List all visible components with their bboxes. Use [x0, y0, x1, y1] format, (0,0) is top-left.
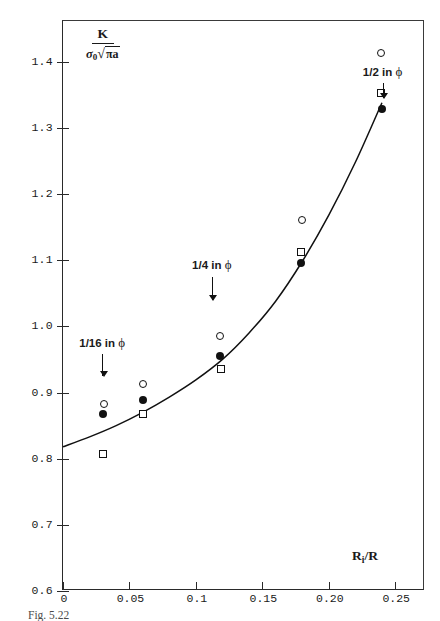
- x-axis-tick: 0.15: [262, 582, 263, 590]
- data-point-open-square: [217, 365, 225, 373]
- y-axis-tick-label: 1.4: [31, 55, 53, 68]
- y-axis-tick-label: 0.6: [31, 584, 53, 597]
- data-point-filled-circle: [99, 410, 107, 418]
- y-axis-tick: 1.4: [57, 62, 69, 63]
- data-point-open-circle: [139, 380, 147, 388]
- annotation-1-4-in-arrow-icon: [212, 277, 213, 299]
- y-axis-tick: 1.1: [57, 260, 69, 261]
- data-point-open-square: [297, 248, 305, 256]
- annotation-1-2-in-text: 1/2 in: [363, 66, 396, 78]
- x-axis-tick-label: 0.25: [382, 592, 410, 605]
- y-axis-tick-label: 1.1: [31, 253, 53, 266]
- y-axis-tick: 1.0: [57, 326, 69, 327]
- plot-area: 0.60.70.80.91.01.11.21.31.400.050.10.150…: [62, 20, 424, 590]
- data-point-filled-circle: [139, 396, 147, 404]
- figure-caption: Fig. 5.22: [28, 609, 69, 621]
- y-axis-tick-label: 0.8: [31, 452, 53, 465]
- y-axis-tick: 1.3: [57, 128, 69, 129]
- x-axis-tick-label: 0.1: [187, 592, 208, 605]
- annotation-1-16-in-arrow-icon: [102, 354, 103, 376]
- x-axis-tick: 0.1: [196, 582, 197, 590]
- data-point-filled-circle: [378, 105, 386, 113]
- fitted-curve-path: [63, 103, 382, 447]
- data-point-open-square: [139, 410, 147, 418]
- y-axis-tick: 0.8: [57, 459, 69, 460]
- phi-symbol: ϕ: [118, 335, 125, 350]
- y-axis-tick: 0.9: [57, 393, 69, 394]
- data-point-open-square: [99, 450, 107, 458]
- x-axis-tick-label: 0.05: [117, 592, 145, 605]
- phi-symbol: ϕ: [395, 64, 402, 79]
- annotation-1-16-in-text: 1/16 in: [79, 337, 118, 349]
- phi-symbol: ϕ: [225, 257, 232, 272]
- y-axis-tick-label: 0.7: [31, 518, 53, 531]
- annotation-1-4-in: 1/4 in ϕ: [192, 257, 231, 273]
- y-axis-tick-label: 0.9: [31, 386, 53, 399]
- y-axis-tick-label: 1.2: [31, 187, 53, 200]
- figure-stress-intensity-chart: K σ0√πa Ri/R 0.60.70.80.91.01.11.21.31.4…: [0, 0, 440, 621]
- x-axis-tick: 0.05: [129, 582, 130, 590]
- annotation-1-4-in-text: 1/4 in: [192, 259, 225, 271]
- data-point-filled-circle: [297, 259, 305, 267]
- data-point-open-circle: [377, 49, 385, 57]
- data-point-open-circle: [298, 216, 306, 224]
- y-axis-tick-label: 1.3: [31, 121, 53, 134]
- x-axis-tick-label: 0.20: [316, 592, 344, 605]
- x-axis-tick: 0.20: [329, 582, 330, 590]
- annotation-1-16-in: 1/16 in ϕ: [79, 335, 125, 351]
- y-axis-tick-label: 1.0: [31, 319, 53, 332]
- x-axis-tick: 0: [63, 582, 64, 590]
- x-axis-tick-label: 0.15: [250, 592, 278, 605]
- x-axis-tick-label: 0: [61, 592, 68, 605]
- annotation-1-2-in-arrow-icon: [383, 83, 384, 98]
- data-point-open-circle: [216, 332, 224, 340]
- x-axis-tick: 0.25: [395, 582, 396, 590]
- annotation-1-2-in: 1/2 in ϕ: [363, 64, 402, 80]
- y-axis-tick: 0.7: [57, 525, 69, 526]
- data-point-filled-circle: [216, 352, 224, 360]
- y-axis-tick: 1.2: [57, 194, 69, 195]
- data-point-open-circle: [100, 400, 108, 408]
- fitted-curve: [63, 21, 425, 591]
